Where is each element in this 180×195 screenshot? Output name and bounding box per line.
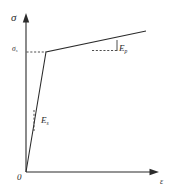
x-axis-arrow-icon — [150, 169, 160, 175]
elastic-modulus-label: Es — [41, 116, 49, 126]
elastic-modulus-subscript: s — [47, 120, 49, 126]
plastic-modulus-subscript: p — [125, 48, 128, 54]
y-axis-arrow-icon — [23, 13, 29, 23]
yield-stress-label: σs — [12, 45, 18, 54]
plot-canvas — [0, 0, 180, 195]
yield-stress-subscript: s — [16, 48, 18, 53]
plastic-modulus-label: Ep — [119, 44, 127, 54]
stress-strain-curve — [26, 31, 146, 172]
origin-label: 0 — [17, 173, 22, 182]
stress-strain-figure: σ ε 0 σs Es Ep — [0, 0, 180, 195]
x-axis-label: ε — [160, 178, 163, 186]
y-axis-label: σ — [11, 12, 16, 23]
